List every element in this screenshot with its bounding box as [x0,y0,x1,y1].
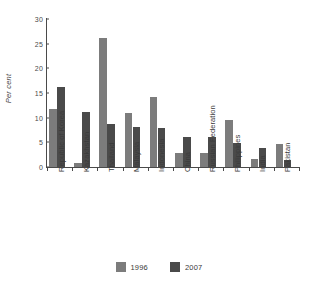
bar-1996 [175,153,183,167]
x-axis-category-label: Malaysia [132,142,141,172]
bar-1996 [251,159,259,167]
x-axis-tick-mark [249,168,250,171]
y-axis-tick-label: 5 [39,139,43,146]
x-axis-category-label: China [183,152,192,172]
x-axis-tick-mark [72,168,73,171]
bar-1996 [99,38,107,167]
legend-item: 2007 [170,262,203,272]
bar-1996 [125,113,133,167]
x-axis-tick-mark [198,168,199,171]
x-axis-tick-mark [173,168,174,171]
bar-1996 [49,109,57,167]
bar-1996 [200,153,208,167]
y-axis-title: Per cent [4,74,13,104]
bar-1996 [74,163,82,167]
y-axis-tick-label: 10 [35,114,43,121]
y-axis-tick-label: 25 [35,40,43,47]
chart-legend: 19962007 [0,262,318,272]
x-axis-category-label: Pakistan [283,142,292,172]
legend-label: 1996 [131,263,149,272]
x-axis-category-label: Indonesia [157,139,166,172]
x-axis-category-label: Philippines [233,135,242,172]
legend-item: 1996 [116,262,149,272]
bar-1996 [225,120,233,167]
y-axis-tick-labels: 051015202530 [26,0,43,293]
x-axis-tick-mark [97,168,98,171]
legend-label: 2007 [185,263,203,272]
x-axis-category-label: Thailand [107,142,116,172]
x-axis-tick-mark [123,168,124,171]
x-axis-tick-mark [47,168,48,171]
bar-group [251,19,267,167]
legend-swatch-icon [170,262,180,272]
y-axis-tick-label: 20 [35,65,43,72]
x-axis-tick-mark [299,168,300,171]
y-axis-tick-label: 15 [35,90,43,97]
bar-group [175,19,191,167]
x-axis-category-label: Russian Federation [208,105,217,172]
x-axis-tick-mark [148,168,149,171]
x-axis-tick-mark [223,168,224,171]
y-axis-tick-label: 0 [39,164,43,171]
x-axis-category-label: India [258,155,267,172]
x-axis-tick-mark [274,168,275,171]
y-axis-tick-label: 30 [35,16,43,23]
x-axis-category-label: Republic of Korea [57,111,66,172]
x-axis-category-label: Kazakhstan [82,132,91,172]
legend-swatch-icon [116,262,126,272]
bar-chart-figure: Per cent 051015202530 Republic of KoreaK… [0,0,318,293]
